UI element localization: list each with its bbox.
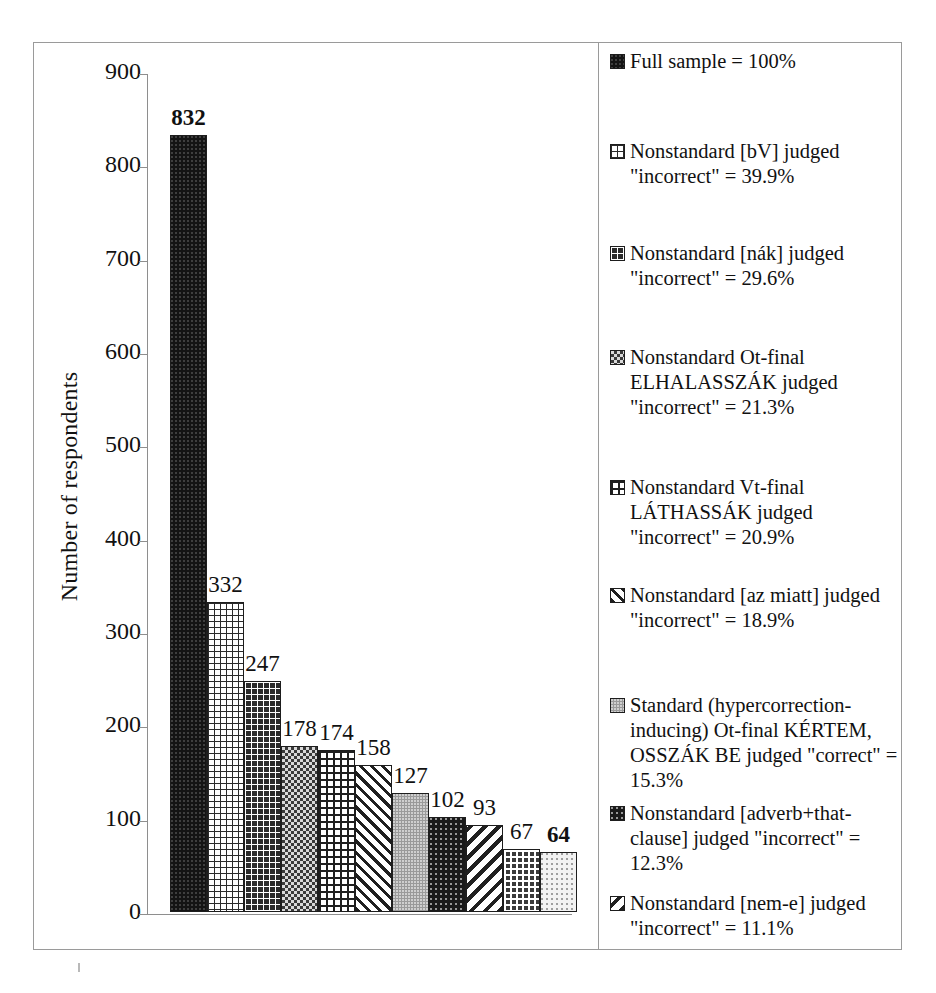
bar-column[interactable]: 64 (540, 72, 577, 912)
y-axis-tick-mark (139, 74, 148, 75)
y-axis-title: Number of respondents (56, 207, 83, 767)
legend-swatch-icon (610, 896, 625, 911)
y-axis-tick-label: 400 (105, 525, 141, 552)
legend-item[interactable]: Nonstandard [bV] judged "incorrect" = 39… (610, 139, 900, 189)
legend-swatch-icon (610, 246, 625, 261)
legend-item-label: Nonstandard Ot-final ELHALASSZÁK judged … (630, 345, 900, 420)
figure-frame: Number of respondents 900800700600500400… (33, 42, 902, 950)
bar-column[interactable]: 174 (318, 72, 355, 912)
legend-swatch-icon (610, 806, 625, 821)
legend-item-label: Nonstandard Vt-final LÁTHASSÁK judged "i… (630, 475, 900, 550)
legend-item-label: Nonstandard [nák] judged "incorrect" = 2… (630, 241, 900, 291)
bar[interactable] (170, 135, 207, 912)
scan-artifact (78, 963, 80, 972)
plot-panel: Number of respondents 900800700600500400… (34, 43, 599, 949)
legend-panel: Full sample = 100%Nonstandard [bV] judge… (600, 43, 902, 949)
y-axis-tick-label: 900 (105, 58, 141, 85)
y-axis-tick-mark (139, 261, 148, 262)
bar-column[interactable]: 102 (429, 72, 466, 912)
y-axis-tick-label: 800 (105, 151, 141, 178)
legend-swatch-icon (610, 698, 625, 713)
y-axis-tick-label: 100 (105, 805, 141, 832)
x-axis-line (147, 914, 572, 915)
bar[interactable] (207, 602, 244, 912)
bar-column[interactable]: 332 (207, 72, 244, 912)
legend-swatch-icon (610, 480, 625, 495)
legend-item[interactable]: Nonstandard [nák] judged "incorrect" = 2… (610, 241, 900, 291)
legend-item-label: Standard (hypercorrection-inducing) Ot-f… (630, 693, 900, 793)
legend-item[interactable]: Nonstandard [az miatt] judged "incorrect… (610, 583, 900, 633)
bar-series: 832332247178174158127102936764 (170, 72, 572, 912)
y-axis-tick-mark (139, 914, 148, 915)
y-axis-tick-label: 0 (129, 898, 141, 925)
bar-column[interactable]: 247 (244, 72, 281, 912)
y-axis-tick-mark (139, 541, 148, 542)
legend-item-label: Nonstandard [bV] judged "incorrect" = 39… (630, 139, 900, 189)
y-axis-tick-label: 700 (105, 245, 141, 272)
y-axis-line (147, 74, 148, 914)
bar[interactable] (503, 849, 540, 912)
legend-swatch-icon (610, 588, 625, 603)
y-axis-tick-mark (139, 634, 148, 635)
legend-swatch-icon (610, 54, 625, 69)
legend-swatch-icon (610, 350, 625, 365)
legend-item[interactable]: Full sample = 100% (610, 49, 900, 74)
bar-column[interactable]: 178 (281, 72, 318, 912)
legend-item[interactable]: Nonstandard [adverb+that-clause] judged … (610, 801, 900, 876)
bar[interactable] (281, 746, 318, 912)
legend-item-label: Nonstandard [az miatt] judged "incorrect… (630, 583, 900, 633)
bar[interactable] (318, 750, 355, 912)
legend-item-label: Nonstandard [adverb+that-clause] judged … (630, 801, 900, 876)
bar-column[interactable]: 67 (503, 72, 540, 912)
y-axis-tick-mark (139, 821, 148, 822)
y-axis-tick-mark (139, 727, 148, 728)
legend-item[interactable]: Nonstandard Vt-final LÁTHASSÁK judged "i… (610, 475, 900, 550)
legend-item[interactable]: Standard (hypercorrection-inducing) Ot-f… (610, 693, 900, 793)
y-axis-tick-label: 600 (105, 338, 141, 365)
legend-item-label: Nonstandard [nem-e] judged "incorrect" =… (630, 891, 900, 941)
legend-item-label: Full sample = 100% (630, 49, 796, 74)
legend-item[interactable]: Nonstandard [nem-e] judged "incorrect" =… (610, 891, 900, 941)
bar[interactable] (540, 852, 577, 912)
legend-swatch-icon (610, 144, 625, 159)
y-axis-tick-mark (139, 447, 148, 448)
y-axis-tick-mark (139, 354, 148, 355)
bar-value-label: 64 (531, 822, 586, 848)
y-axis-tick-label: 200 (105, 711, 141, 738)
y-axis-tick-mark (139, 167, 148, 168)
y-axis-tick-label: 500 (105, 431, 141, 458)
legend-item[interactable]: Nonstandard Ot-final ELHALASSZÁK judged … (610, 345, 900, 420)
bar-column[interactable]: 832 (170, 72, 207, 912)
bar-column[interactable]: 93 (466, 72, 503, 912)
bar[interactable] (429, 817, 466, 912)
y-axis-tick-label: 300 (105, 618, 141, 645)
